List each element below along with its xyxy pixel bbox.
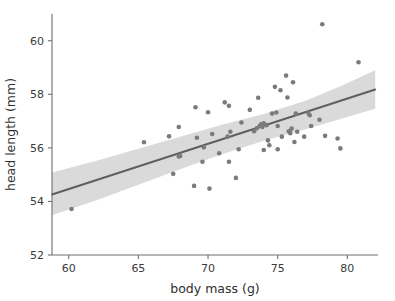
scatter-point — [278, 88, 283, 93]
scatter-point — [193, 105, 198, 110]
scatter-point — [274, 110, 279, 115]
y-tick-label: 54 — [30, 195, 44, 208]
y-tick-label: 52 — [30, 249, 44, 262]
scatter-point — [202, 145, 207, 150]
scatter-point — [239, 120, 244, 125]
scatter-point — [288, 131, 293, 136]
scatter-point — [207, 186, 212, 191]
scatter-point — [227, 160, 232, 165]
scatter-plot-figure: 60657075805254565860body mass (g)head le… — [0, 0, 395, 301]
scatter-point — [256, 96, 261, 101]
scatter-point — [280, 134, 285, 139]
scatter-point — [228, 130, 233, 135]
scatter-point — [284, 73, 289, 78]
scatter-point — [323, 134, 328, 139]
y-tick-label: 58 — [30, 88, 44, 101]
regression-line — [52, 90, 375, 195]
scatter-point — [285, 95, 290, 100]
scatter-point — [227, 104, 232, 109]
scatter-point — [275, 147, 280, 152]
scatter-point — [275, 124, 280, 129]
y-axis-title: head length (mm) — [3, 78, 18, 191]
x-tick-label: 70 — [201, 262, 215, 275]
regression-trend-line — [52, 90, 375, 195]
scatter-point — [317, 117, 322, 122]
scatter-point — [307, 113, 312, 118]
scatter-point — [302, 134, 307, 139]
scatter-point — [178, 154, 183, 159]
scatter-point — [236, 147, 241, 152]
scatter-point — [206, 110, 211, 115]
scatter-point — [273, 85, 278, 90]
scatter-point — [217, 151, 222, 156]
scatter-point — [267, 143, 272, 148]
x-tick-label: 80 — [340, 262, 354, 275]
scatter-point — [234, 176, 239, 181]
scatter-point — [167, 134, 172, 139]
scatter-point — [171, 172, 176, 177]
scatter-point — [142, 140, 147, 145]
scatter-point — [294, 111, 299, 116]
chart-canvas: 60657075805254565860body mass (g)head le… — [0, 0, 395, 301]
scatter-point — [338, 146, 343, 151]
scatter-point — [295, 130, 300, 135]
scatter-point — [335, 136, 340, 141]
scatter-point — [270, 111, 275, 116]
scatter-point — [320, 22, 325, 27]
scatter-point — [264, 123, 269, 128]
scatter-point — [266, 138, 271, 143]
scatter-point — [192, 184, 197, 189]
scatter-point — [261, 148, 266, 153]
scatter-point — [248, 108, 253, 113]
scatter-point — [225, 134, 230, 139]
scatter-point — [200, 160, 205, 165]
scatter-point — [292, 140, 297, 145]
x-tick-label: 75 — [271, 262, 285, 275]
scatter-point — [291, 80, 296, 85]
y-tick-label: 60 — [30, 35, 44, 48]
scatter-point — [289, 126, 294, 131]
scatter-point — [222, 100, 227, 105]
scatter-point — [210, 132, 215, 137]
scatter-point — [176, 125, 181, 130]
scatter-point — [356, 60, 361, 65]
scatter-point — [309, 124, 314, 129]
x-tick-label: 60 — [62, 262, 76, 275]
x-tick-label: 65 — [131, 262, 145, 275]
x-axis-title: body mass (g) — [170, 281, 259, 296]
y-tick-label: 56 — [30, 142, 44, 155]
scatter-point — [195, 135, 200, 140]
scatter-point — [69, 207, 74, 212]
